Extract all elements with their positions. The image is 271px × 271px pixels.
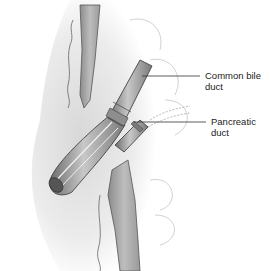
label-common-bile-duct-line2: duct	[205, 81, 261, 92]
label-common-bile-duct-line1: Common bile	[205, 70, 261, 81]
label-pancreatic-duct-line2: duct	[211, 127, 256, 138]
label-pancreatic-duct-line1: Pancreatic	[211, 116, 256, 127]
label-pancreatic-duct: Pancreatic duct	[211, 116, 256, 138]
label-common-bile-duct: Common bile duct	[205, 70, 261, 92]
